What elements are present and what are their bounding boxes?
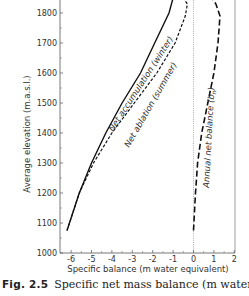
- y-axis-title: Average elevation (m.a.s.l.): [22, 75, 32, 192]
- y-tick-label: 1400: [37, 129, 57, 138]
- x-tick-label: -5: [88, 255, 96, 264]
- x-tick-label: -2: [149, 255, 157, 264]
- x-tick-label: 1: [211, 255, 216, 264]
- x-tick-label: -4: [108, 255, 116, 264]
- y-tick-label: 1000: [37, 249, 57, 258]
- y-tick-label: 1700: [37, 39, 57, 48]
- x-tick-label: 2: [232, 255, 237, 264]
- x-tick-label: 0: [191, 255, 196, 264]
- x-tick-label: -1: [169, 255, 177, 264]
- figure-number: Fig. 2.5: [2, 278, 48, 290]
- y-tick-label: 1300: [37, 159, 57, 168]
- y-tick-label: 1200: [37, 189, 57, 198]
- y-tick-label: 1800: [37, 9, 57, 18]
- x-axis-title: Specific balance (m water equivalent): [67, 264, 228, 274]
- label-annual-net-balance: Annual net balance (bn): [201, 87, 217, 189]
- y-tick-label: 1500: [37, 99, 57, 108]
- x-tick-label: -6: [67, 255, 75, 264]
- y-tick-label: 1600: [37, 69, 57, 78]
- x-ticks: -6-5-4-3-2-1012: [67, 250, 237, 264]
- x-tick-label: -3: [128, 255, 136, 264]
- y-tick-label: 1100: [37, 219, 57, 228]
- net-ablation-line: [67, 0, 187, 231]
- figure-caption: Fig. 2.5Specific net mass balance (m wat…: [2, 278, 249, 291]
- caption-text: Specific net mass balance (m water: [54, 278, 249, 291]
- y-ticks: 100011001200130014001500160017001800: [37, 0, 63, 258]
- mass-balance-chart: 100011001200130014001500160017001800 -6-…: [0, 0, 249, 296]
